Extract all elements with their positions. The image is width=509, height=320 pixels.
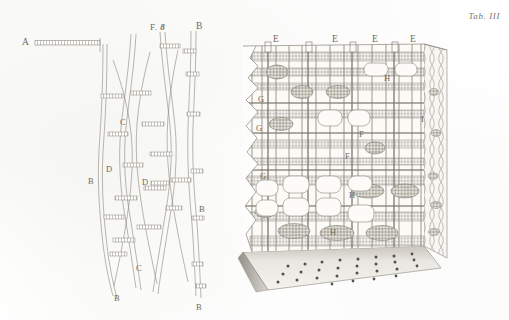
label-I1: I [421,115,424,124]
label-B5: B [196,303,202,312]
label-C2: C [136,264,142,273]
pit-rows [101,44,206,288]
label-C1: C [120,118,126,127]
label-B1: B [196,22,203,32]
label-E3: E [372,35,378,45]
label-B3: B [199,205,205,214]
label-E4: E [410,35,416,45]
fiber-bundle-B [98,31,201,298]
block-front-face [243,44,424,252]
right-figure-group [238,42,447,292]
label-H3: H [330,228,336,237]
label-D1: D [106,165,112,174]
left-figure-group [35,31,206,298]
label-F1: F [359,130,364,139]
figure-label-number: 8 [160,22,165,32]
figure-number-label: F. 8 [150,22,165,32]
label-G3: G [260,172,266,181]
plate-illustration [0,0,509,320]
figure-label-prefix: F. [150,22,158,32]
label-B2: B [88,177,94,186]
label-F2: F [345,152,350,161]
label-E2: E [332,35,338,45]
engraving-plate: F. 8 Tab. III A B B B B B C C D D E E E … [0,0,509,320]
label-H2: H [349,191,355,200]
label-E1: E [273,35,279,45]
plate-number-label: Tab. III [469,11,500,21]
label-G2: G [256,124,262,133]
label-G1: G [258,95,264,104]
label-B4: B [114,294,120,303]
label-D2: D [142,178,148,187]
label-A: A [22,38,29,48]
fiber-A [35,38,100,52]
block-base-wedge [238,246,441,292]
label-H1: H [384,74,390,83]
block-side-face [424,44,447,258]
